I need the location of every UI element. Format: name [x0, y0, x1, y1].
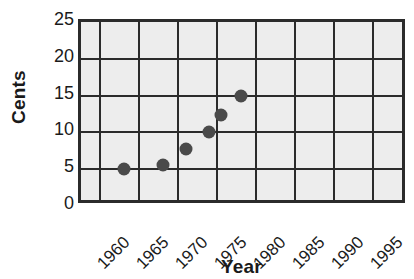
y-axis-tick-labels: 0510152025 — [34, 19, 74, 203]
x-axis-tick-labels: 19601965197019751980198519901995 — [78, 206, 405, 256]
data-point-marker — [180, 142, 193, 155]
y-tick-label: 0 — [64, 193, 74, 214]
y-tick-label: 15 — [54, 82, 74, 103]
y-tick-label: 5 — [64, 156, 74, 177]
data-point-marker — [215, 109, 228, 122]
y-axis-title: Cents — [8, 52, 30, 142]
data-point-marker — [234, 89, 247, 102]
scatter-chart-figure: Cents 0510152025 19601965197019751980198… — [0, 0, 414, 279]
data-markers-layer — [81, 22, 402, 200]
y-tick-label: 10 — [54, 119, 74, 140]
x-axis-title: Year — [78, 256, 405, 278]
data-point-marker — [156, 158, 169, 171]
y-tick-label: 25 — [54, 9, 74, 30]
plot-area — [78, 19, 405, 203]
data-point-marker — [203, 126, 216, 139]
data-point-marker — [117, 163, 130, 176]
y-tick-label: 20 — [54, 45, 74, 66]
